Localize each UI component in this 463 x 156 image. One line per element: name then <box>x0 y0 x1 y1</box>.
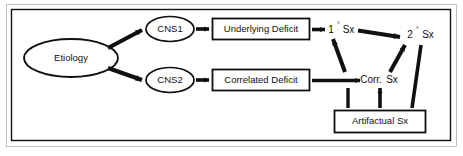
node-correlated-deficit: Correlated Deficit <box>213 70 310 91</box>
correlated-deficit-label: Correlated Deficit <box>224 74 298 85</box>
node-underlying-deficit: Underlying Deficit <box>213 19 310 40</box>
cns2-label: CNS2 <box>157 74 182 85</box>
node-correlated-sx: Corr. Sx <box>360 74 398 85</box>
correlated-sx-label: Corr. <box>360 74 382 85</box>
secondary-sx-number: 2 <box>407 29 413 40</box>
artifactual-sx-label: Artifactual Sx <box>352 115 408 126</box>
node-cns1: CNS1 <box>146 17 194 42</box>
node-artifactual-sx: Artifactual Sx <box>335 111 426 133</box>
node-cns2: CNS2 <box>146 68 194 93</box>
diagram-screenshot: Etiology CNS1 CNS2 Underlying Deficit Co… <box>0 0 463 156</box>
correlated-sx-label-2: Sx <box>386 74 398 85</box>
underlying-deficit-label: Underlying Deficit <box>224 23 299 34</box>
causal-pathway-diagram: Etiology CNS1 CNS2 Underlying Deficit Co… <box>0 0 463 156</box>
etiology-label: Etiology <box>54 52 88 63</box>
primary-sx-degree-icon: ° <box>337 21 340 28</box>
primary-sx-label: Sx <box>343 24 355 35</box>
secondary-sx-label: Sx <box>422 29 434 40</box>
cns1-label: CNS1 <box>157 23 182 34</box>
primary-sx-number: 1 <box>328 24 334 35</box>
node-etiology: Etiology <box>24 39 118 77</box>
secondary-sx-degree-icon: ° <box>416 26 419 33</box>
